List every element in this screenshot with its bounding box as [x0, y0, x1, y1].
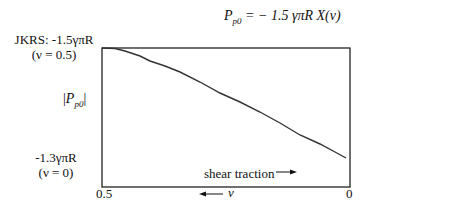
- data-curve: [102, 48, 346, 158]
- arrow-right-icon: [276, 170, 297, 175]
- arrow-left-icon: [199, 192, 223, 197]
- plot-area: [0, 0, 452, 200]
- plot-frame: [102, 48, 350, 187]
